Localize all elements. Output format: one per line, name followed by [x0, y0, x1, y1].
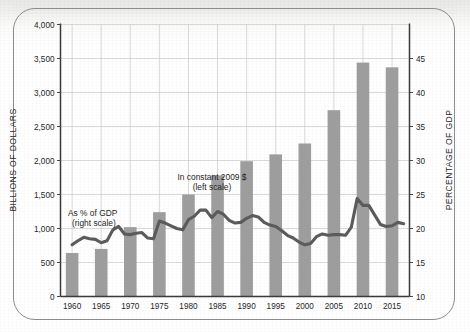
left-axis-ticks: 4,0003,5003,0002,5002,0001,5001,0005000 [34, 21, 61, 302]
x-tick-label: 1970 [121, 302, 140, 311]
right-tick-label: 40 [416, 89, 426, 98]
right-tick-label: 10 [416, 293, 426, 302]
left-tick-label: 1,000 [34, 225, 55, 234]
right-tick-label: 20 [416, 225, 426, 234]
annotation-bars: In constant 2009 $ (left scale) [178, 172, 247, 192]
x-axis-ticks: 1960196519701975198019851990199520002005… [63, 302, 402, 311]
left-tick-label: 3,500 [34, 55, 55, 64]
x-tick-label: 2005 [325, 302, 344, 311]
gdp-percent-line [72, 199, 404, 245]
x-tick-label: 2010 [354, 302, 373, 311]
x-tick-label: 1975 [150, 302, 169, 311]
x-tick-label: 1990 [238, 302, 257, 311]
bar-1960 [66, 253, 79, 297]
left-tick-label: 2,000 [34, 157, 55, 166]
right-axis-title: PERCENTAGE OF GDP [444, 110, 454, 211]
svg-text:(left scale): (left scale) [193, 182, 232, 192]
x-tick-label: 1980 [179, 302, 198, 311]
left-tick-label: 2,500 [34, 123, 55, 132]
left-tick-label: 3,000 [34, 89, 55, 98]
bar-2015 [386, 67, 399, 296]
bar-1980 [182, 195, 195, 297]
right-axis-ticks: 4540353025201510 [410, 55, 426, 302]
left-axis-title: BILLIONS OF DOLLARS [8, 108, 18, 211]
right-tick-label: 35 [416, 123, 426, 132]
right-tick-label: 45 [416, 55, 426, 64]
svg-text:(right scale): (right scale) [72, 218, 116, 228]
bar-2010 [357, 63, 370, 297]
left-tick-label: 1,500 [34, 191, 55, 200]
x-tick-label: 1960 [63, 302, 82, 311]
x-tick-label: 1995 [267, 302, 286, 311]
right-tick-label: 30 [416, 157, 426, 166]
x-tick-label: 2000 [296, 302, 315, 311]
x-tick-label: 1965 [92, 302, 111, 311]
bar-1985 [211, 175, 224, 296]
bar-1970 [124, 227, 137, 296]
svg-text:In constant 2009 $: In constant 2009 $ [178, 172, 247, 182]
bar-2000 [299, 144, 312, 297]
right-tick-label: 25 [416, 191, 426, 200]
right-tick-label: 15 [416, 259, 426, 268]
x-tick-label: 1985 [208, 302, 227, 311]
bar-2005 [328, 110, 341, 296]
chart-figure: 4,0003,5003,0002,5002,0001,5001,0005000 … [0, 0, 470, 332]
chart-svg: 4,0003,5003,0002,5002,0001,5001,0005000 … [0, 0, 470, 332]
x-tick-label: 2015 [383, 302, 402, 311]
left-tick-label: 500 [41, 259, 55, 268]
annotation-line: As % of GDP (right scale) [68, 208, 118, 228]
svg-text:As % of GDP: As % of GDP [68, 208, 118, 218]
left-tick-label: 4,000 [34, 21, 55, 30]
left-tick-label: 0 [50, 293, 55, 302]
bar-1965 [95, 249, 108, 297]
